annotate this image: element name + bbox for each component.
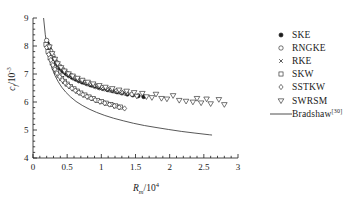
- x-axis-label: Rm/104: [133, 181, 159, 195]
- legend-item-rngke[interactable]: RNGKE: [270, 41, 353, 54]
- open-square-icon: [270, 68, 292, 80]
- legend-item-swrsm[interactable]: SWRSM: [270, 94, 353, 107]
- y-tick-label: 8: [24, 41, 29, 51]
- legend-label: RNGKE: [292, 43, 326, 53]
- open-diamond-icon: [270, 81, 292, 93]
- y-tick-label: 5: [24, 125, 29, 135]
- legend-label: RKE: [292, 56, 312, 66]
- y-tick-label: 9: [24, 13, 29, 23]
- legend-item-sstkw[interactable]: SSTKW: [270, 81, 353, 94]
- legend-item-skw[interactable]: SKW: [270, 68, 353, 81]
- open-down-triangle-icon: [270, 95, 292, 107]
- x-tick-label: 1.5: [130, 162, 142, 172]
- y-tick-label: 7: [24, 69, 29, 79]
- open-circle-icon: [270, 42, 292, 54]
- y-tick-label: 6: [24, 97, 29, 107]
- cross-dot-icon: [270, 55, 292, 67]
- legend-item-ske[interactable]: SKE: [270, 28, 353, 41]
- legend-item-bradshaw[interactable]: Bradshaw[30]: [270, 107, 353, 120]
- legend-label: SKE: [292, 30, 311, 40]
- y-axis-label: cf/10-3: [5, 53, 19, 105]
- legend-label: SWRSM: [292, 96, 327, 106]
- legend-label: SSTKW: [292, 82, 325, 92]
- legend-label: Bradshaw[30]: [292, 108, 342, 119]
- line-icon: [270, 108, 292, 120]
- filled-circle-icon: [270, 29, 292, 41]
- legend-item-rke[interactable]: RKE: [270, 54, 353, 67]
- x-tick-label: 3: [236, 162, 241, 172]
- x-tick-label: 2.5: [198, 162, 210, 172]
- chart-legend: SKERNGKERKESKWSSTKWSWRSMBradshaw[30]: [270, 28, 353, 120]
- x-tick-label: 0.5: [62, 162, 74, 172]
- x-tick-label: 0: [31, 162, 36, 172]
- x-tick-label: 1: [99, 162, 104, 172]
- y-tick-label: 4: [24, 153, 29, 163]
- legend-reference: [30]: [332, 108, 343, 114]
- legend-label: SKW: [292, 69, 314, 79]
- x-tick-label: 2: [167, 162, 172, 172]
